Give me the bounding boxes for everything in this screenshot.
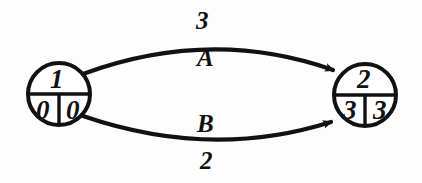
network-diagram-canvas: 1 0 0 2 3 3 3 A B 2 (0, 0, 422, 183)
node-2-id-label: 2 (357, 66, 371, 93)
node-1-id-label: 1 (50, 66, 64, 93)
node-2-early-label: 3 (343, 97, 357, 124)
edge-a-name-label: A (197, 45, 214, 70)
node-1-late-label: 0 (66, 97, 80, 124)
edge-b-duration-label: 2 (200, 148, 213, 173)
node-2-late-label: 3 (373, 97, 387, 124)
edge-a-duration-label: 3 (196, 8, 209, 33)
edge-b-name-label: B (197, 111, 214, 136)
node-1-early-label: 0 (36, 97, 50, 124)
